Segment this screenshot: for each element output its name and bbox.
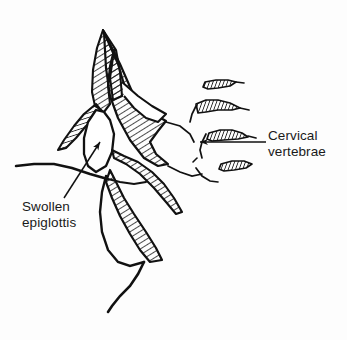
cervical-vertebra-4 <box>193 158 252 182</box>
anatomy-figure: Cervical vertebrae Swollen epiglottis <box>0 0 347 340</box>
label-swollen-epiglottis: Swollen epiglottis <box>22 199 76 230</box>
swollen-epiglottis <box>84 110 114 172</box>
anterior-neck-contour <box>16 164 146 312</box>
anatomy-drawing <box>0 0 347 340</box>
label-cervical-line1: Cervical <box>268 128 326 144</box>
label-epiglottis-line2: epiglottis <box>22 215 76 231</box>
cervical-vertebra-2 <box>190 100 249 122</box>
label-cervical-vertebrae: Cervical vertebrae <box>268 128 326 159</box>
label-cervical-line2: vertebrae <box>268 144 326 160</box>
label-epiglottis-line1: Swollen <box>22 199 76 215</box>
cervical-vertebra-1 <box>203 80 244 89</box>
cervical-vertebra-3 <box>200 130 256 158</box>
